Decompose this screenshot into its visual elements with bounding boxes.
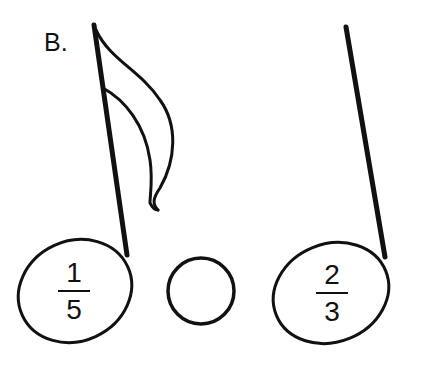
numerator: 2 bbox=[312, 261, 352, 289]
fraction-bar bbox=[58, 290, 90, 292]
dot bbox=[168, 258, 234, 324]
eighth-note-stem bbox=[94, 25, 127, 255]
fraction-one-fifth: 1 5 bbox=[54, 259, 94, 324]
numerator: 1 bbox=[54, 259, 94, 287]
fraction-two-thirds: 2 3 bbox=[312, 261, 352, 326]
denominator: 5 bbox=[54, 296, 94, 324]
denominator: 3 bbox=[312, 298, 352, 326]
fraction-bar bbox=[316, 292, 348, 294]
quarter-note-stem bbox=[346, 27, 385, 257]
